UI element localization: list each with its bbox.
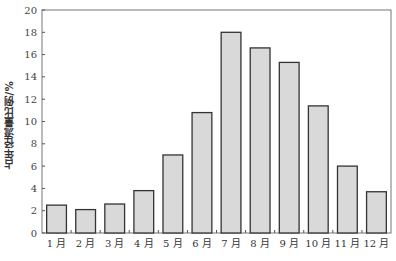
x-tick-label: 5 月 (163, 238, 183, 249)
x-tick-label: 2 月 (76, 238, 96, 249)
y-tick-label: 2 (31, 205, 37, 216)
y-tick-label: 16 (24, 49, 37, 60)
bar (250, 48, 270, 233)
y-tick-label: 0 (31, 228, 37, 239)
bar (163, 155, 183, 233)
x-tick-label: 9 月 (279, 238, 299, 249)
x-tick-label: 11 月 (334, 238, 360, 249)
y-tick-label: 4 (31, 183, 37, 194)
y-tick-label: 20 (24, 5, 37, 16)
x-tick-label: 10 月 (305, 238, 331, 249)
bar (192, 113, 212, 233)
bar (308, 106, 328, 233)
bar (134, 191, 154, 233)
bar (221, 32, 241, 233)
bar (76, 210, 96, 233)
x-tick-label: 1 月 (47, 238, 67, 249)
bar (105, 204, 125, 233)
y-tick-label: 12 (24, 94, 37, 105)
x-tick-label: 7 月 (221, 238, 241, 249)
bar (279, 62, 299, 233)
y-tick-label: 8 (31, 138, 37, 149)
bar (367, 192, 387, 233)
y-tick-label: 14 (24, 71, 37, 82)
x-tick-label: 4 月 (134, 238, 154, 249)
x-tick-label: 6 月 (192, 238, 212, 249)
y-tick-label: 18 (24, 27, 37, 38)
x-tick-label: 12 月 (364, 238, 390, 249)
bar-chart: 024681012141618201 月2 月3 月4 月5 月6 月7 月8 … (0, 0, 396, 261)
bar (47, 205, 67, 233)
y-tick-label: 10 (24, 116, 37, 127)
x-tick-label: 8 月 (250, 238, 270, 249)
x-tick-label: 3 月 (105, 238, 125, 249)
bar (337, 166, 357, 233)
y-tick-label: 6 (31, 161, 37, 172)
